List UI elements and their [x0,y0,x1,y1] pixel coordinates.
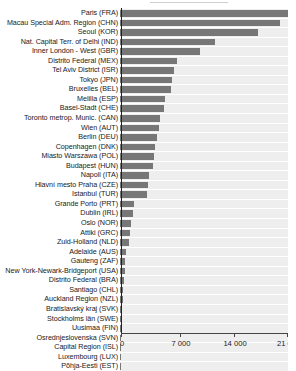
category-label: Grande Porto (PRT) [0,199,120,209]
y-axis-line [121,8,122,333]
bar-track [120,294,296,304]
bar-track [120,189,296,199]
bar [120,172,149,179]
bar [120,163,153,170]
bar-row: Melilla (ESP) [0,94,296,104]
category-label: Uusimaa (FIN) [0,323,120,333]
bar-row: Istanbul (TUR) [0,189,296,199]
bar-track [120,103,296,113]
bar [120,67,174,74]
bar-row: Põhja-Eesti (EST) [0,361,296,371]
bar-track [120,228,296,238]
bar-row: Capital Region (ISL) [0,342,296,352]
category-label: Santiago (CHL) [0,285,120,295]
bar [120,29,258,36]
x-tick-0 [121,333,122,337]
bar-row: Attiki (GRC) [0,228,296,238]
category-label: Adelaide (AUS) [0,247,120,257]
bar-row: Inner London - West (GBR) [0,46,296,56]
bar [120,115,160,122]
bar-track [120,237,296,247]
bar-row: Copenhagen (DNK) [0,142,296,152]
bar-row: Zuid-Holland (NLD) [0,237,296,247]
bar-track [120,123,296,133]
bar-row: Basel-Stadt (CHE) [0,103,296,113]
category-label: Berlin (DEU) [0,132,120,142]
category-label: Hlavní mesto Praha (CZE) [0,180,120,190]
category-label: Distrito Federal (MEX) [0,56,120,66]
category-label: Napoli (ITA) [0,170,120,180]
bar-track [120,8,296,18]
category-label: Bruxelles (BEL) [0,84,120,94]
bar [120,48,200,55]
category-label: Istanbul (TUR) [0,189,120,199]
x-axis-line [121,333,288,334]
bar [120,153,154,160]
bar-track [120,94,296,104]
category-label: Seoul (KOR) [0,27,120,37]
bar-row: Macau Special Adm. Region (CHN) [0,18,296,28]
bar-row: Dublin (IRL) [0,208,296,218]
category-label: New York-Newark-Bridgeport (USA) [0,266,120,276]
bar-track [120,170,296,180]
category-label: Distrito Federal (BRA) [0,275,120,285]
category-label: Capital Region (ISL) [0,342,120,352]
bar [120,10,294,17]
bar-row: Bruxelles (BEL) [0,84,296,94]
bar-chart: Paris (FRA)Macau Special Adm. Region (CH… [0,0,296,371]
bar-track [120,256,296,266]
bar [120,134,157,141]
bar-row: Oslo (NOR) [0,218,296,228]
right-clip-mask [288,0,296,371]
bar [120,77,172,84]
category-label: Miasto Warszawa (POL) [0,151,120,161]
bar-track [120,132,296,142]
category-label: Zuid-Holland (NLD) [0,237,120,247]
bar-track [120,27,296,37]
bar-row: New York-Newark-Bridgeport (USA) [0,266,296,276]
bar-row: Auckland Region (NZL) [0,294,296,304]
bar-track [120,56,296,66]
x-tick-label-7000: 7 000 [171,339,190,348]
bar-track [120,314,296,324]
bar [120,125,159,132]
x-tick-7000 [180,333,181,337]
bar [120,354,121,361]
category-label: Toronto metrop. Munic. (CAN) [0,113,120,123]
bar-row: Budapest (HUN) [0,161,296,171]
category-label: Dublin (IRL) [0,208,120,218]
bar [120,58,177,65]
category-label: Luxembourg (LUX) [0,352,120,362]
bar [120,105,164,112]
bar-row: Tel Aviv District (ISR) [0,65,296,75]
bar-row: Uusimaa (FIN) [0,323,296,333]
category-label: Wien (AUT) [0,123,120,133]
top-divider [150,2,228,3]
bar-rows: Paris (FRA)Macau Special Adm. Region (CH… [0,8,296,371]
category-label: Stockholms län (SWE) [0,314,120,324]
category-label: Attiki (GRC) [0,228,120,238]
bar-row: Bratislavský kraj (SVK) [0,304,296,314]
bar-row: Wien (AUT) [0,123,296,133]
bar [120,191,147,198]
bar-row: Nat. Capital Terr. of Delhi (IND) [0,37,296,47]
bar-track [120,361,296,371]
bar [120,363,121,370]
category-label: Nat. Capital Terr. of Delhi (IND) [0,37,120,47]
bar-track [120,304,296,314]
bar-row: Napoli (ITA) [0,170,296,180]
bar [120,39,215,46]
category-label: Bratislavský kraj (SVK) [0,304,120,314]
bar-row: Miasto Warszawa (POL) [0,151,296,161]
bar-track [120,247,296,257]
bar-row: Hlavní mesto Praha (CZE) [0,180,296,190]
bar [120,20,280,27]
category-label: Melilla (ESP) [0,94,120,104]
bar-row: Santiago (CHL) [0,285,296,295]
bar-track [120,342,296,352]
bar-row: Stockholms län (SWE) [0,314,296,324]
category-label: Basel-Stadt (CHE) [0,103,120,113]
category-label: Põhja-Eesti (EST) [0,361,120,371]
category-label: Auckland Region (NZL) [0,294,120,304]
bar-track [120,75,296,85]
